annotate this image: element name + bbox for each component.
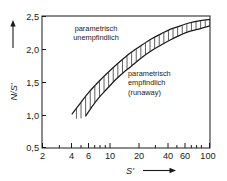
annotation-insensitive-line-1: parametrisch bbox=[75, 24, 118, 33]
x-tick-label-6: 6 bbox=[86, 151, 91, 161]
x-axis-title: S' bbox=[126, 166, 135, 176]
x-axis-major-ticks bbox=[43, 143, 210, 148]
annotation-insensitive-line-2: unempfindlich bbox=[73, 33, 119, 42]
x-tick-label-100: 100 bbox=[200, 151, 215, 161]
annotation-sensitive-line-3: (runaway) bbox=[128, 88, 161, 97]
y-tick-label-1-0: 1,0 bbox=[26, 111, 39, 121]
x-axis-right-arrow-icon bbox=[143, 168, 176, 173]
y-tick-label-0-5: 0,5 bbox=[26, 143, 39, 153]
annotation-sensitive-line-2: empfindlich bbox=[128, 78, 165, 87]
y-axis-title: N/S' bbox=[9, 82, 19, 100]
figure-container: 2,5 2,0 1,5 1,0 0,5 N/S' bbox=[0, 0, 227, 181]
x-tick-label-60: 60 bbox=[180, 151, 190, 161]
cut-off-caption bbox=[0, 176, 227, 181]
parametric-sensitivity-chart: 2,5 2,0 1,5 1,0 0,5 N/S' bbox=[0, 0, 227, 181]
y-axis-tick-labels: 2,5 2,0 1,5 1,0 0,5 bbox=[26, 12, 39, 153]
y-tick-label-1-5: 1,5 bbox=[26, 78, 39, 88]
y-axis-up-arrow-icon bbox=[10, 20, 15, 48]
annotation-parametrisch-empfindlich: parametrisch empfindlich (runaway) bbox=[128, 69, 171, 97]
y-tick-label-2-5: 2,5 bbox=[26, 12, 39, 22]
y-axis-ticks bbox=[42, 17, 46, 148]
annotation-parametrisch-unempfindlich: parametrisch unempfindlich bbox=[73, 24, 119, 42]
y-tick-label-2-0: 2,0 bbox=[26, 45, 39, 55]
plot-frame bbox=[42, 16, 210, 148]
x-tick-label-20: 20 bbox=[134, 151, 144, 161]
x-tick-label-10: 10 bbox=[105, 151, 115, 161]
x-axis-tick-labels: 2 4 6 10 20 40 60 100 bbox=[40, 151, 216, 161]
x-tick-label-4: 4 bbox=[69, 151, 74, 161]
annotation-sensitive-line-1: parametrisch bbox=[128, 69, 171, 78]
x-tick-label-2: 2 bbox=[40, 151, 45, 161]
x-tick-label-40: 40 bbox=[163, 151, 173, 161]
